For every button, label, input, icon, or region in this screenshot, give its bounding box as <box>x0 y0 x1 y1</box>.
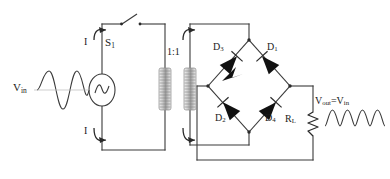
input-sine-waveform <box>34 71 89 109</box>
output-rectified-waveform <box>325 110 385 126</box>
transformer-secondary-coil <box>184 68 196 110</box>
bridge-node-right <box>288 84 291 87</box>
label-current-top: I <box>84 37 87 47</box>
current-arrow-bottom <box>94 128 106 143</box>
circuit-diagram: Vin S1 I I 1:1 D3 D1 D2 D4 RL Vout=Vin <box>0 0 390 179</box>
label-load-resistor: RL <box>285 114 296 125</box>
label-diode-d4: D4 <box>265 113 276 124</box>
diode-d3-symbol <box>219 51 243 81</box>
label-diode-d1: D1 <box>267 42 278 53</box>
transformer-primary-coil <box>159 68 171 110</box>
current-arrow-secondary-bottom <box>183 128 195 143</box>
bridge-node-top <box>247 38 250 41</box>
bridge-node-bottom <box>247 130 250 133</box>
label-diode-d3: D3 <box>213 42 224 53</box>
label-diode-d2: D2 <box>215 113 226 124</box>
ac-source-symbol <box>89 74 115 106</box>
load-resistor-symbol <box>308 112 318 136</box>
bridge-node-left <box>206 84 209 87</box>
label-switch-s1: S1 <box>105 37 115 49</box>
circuit-schematic <box>0 0 390 179</box>
switch-s1[interactable] <box>120 14 141 25</box>
current-arrow-secondary-top <box>183 27 195 40</box>
label-v-out: Vout=Vin <box>315 96 349 107</box>
label-current-bottom: I <box>84 126 87 136</box>
label-v-in: Vin <box>13 82 27 94</box>
label-turns-ratio: 1:1 <box>167 47 180 57</box>
